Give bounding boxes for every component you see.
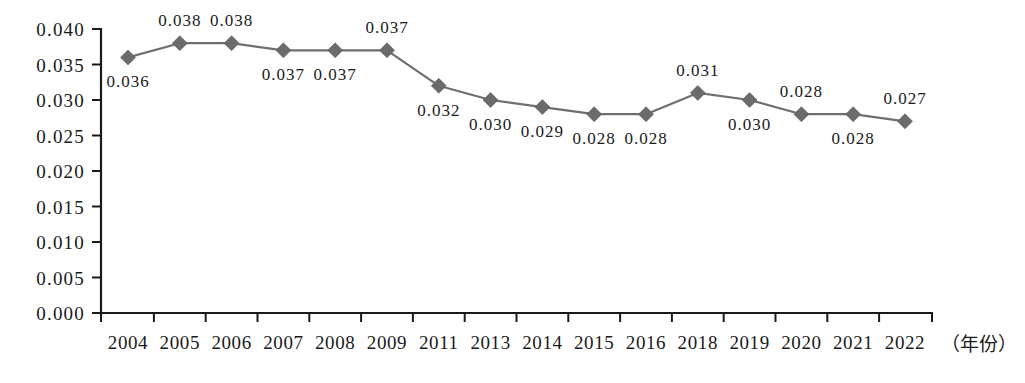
- data-point-label: 0.036: [106, 72, 149, 91]
- x-tick-marks: [101, 313, 932, 322]
- x-tick-label: 2016: [626, 332, 666, 353]
- x-tick-label: 2014: [522, 332, 562, 353]
- data-point-marker: [690, 85, 705, 100]
- x-axis-title: （年份）: [941, 334, 1017, 355]
- data-point-label: 0.032: [417, 101, 460, 120]
- y-tick-label: 0.020: [36, 161, 85, 182]
- series-point-labels: 0.0360.0380.0380.0370.0370.0370.0320.030…: [106, 11, 926, 148]
- data-point-marker: [898, 114, 913, 129]
- series-group: 0.0360.0380.0380.0370.0370.0370.0320.030…: [106, 11, 926, 148]
- data-point-marker: [587, 107, 602, 122]
- data-point-marker: [846, 107, 861, 122]
- y-tick-label: 0.005: [36, 268, 85, 289]
- data-point-marker: [276, 43, 291, 58]
- x-tick-label: 2007: [263, 332, 303, 353]
- x-tick-label: 2009: [367, 332, 407, 353]
- data-point-label: 0.037: [262, 65, 305, 84]
- y-tick-labels: 0.0000.0050.0100.0150.0200.0250.0300.035…: [36, 19, 85, 324]
- y-tick-label: 0.015: [36, 197, 85, 218]
- data-point-marker: [794, 107, 809, 122]
- chart-canvas: 0.0000.0050.0100.0150.0200.0250.0300.035…: [0, 0, 1025, 383]
- data-point-label: 0.031: [676, 61, 719, 80]
- y-axis-group: 0.0000.0050.0100.0150.0200.0250.0300.035…: [36, 19, 101, 324]
- data-point-label: 0.037: [365, 18, 408, 37]
- x-tick-label: 2006: [211, 332, 251, 353]
- data-point-marker: [224, 36, 239, 51]
- data-point-marker: [483, 93, 498, 108]
- x-tick-label: 2015: [574, 332, 614, 353]
- y-tick-label: 0.010: [36, 232, 85, 253]
- x-tick-label: 2004: [108, 332, 148, 353]
- data-point-label: 0.030: [469, 115, 512, 134]
- data-point-marker: [639, 107, 654, 122]
- x-tick-labels: 2004200520062007200820092011201320142015…: [108, 332, 925, 353]
- y-tick-label: 0.030: [36, 90, 85, 111]
- data-point-marker: [380, 43, 395, 58]
- data-point-label: 0.028: [780, 82, 823, 101]
- x-axis-group: 2004200520062007200820092011201320142015…: [101, 313, 1017, 355]
- x-tick-label: 2013: [470, 332, 510, 353]
- y-tick-label: 0.040: [36, 19, 85, 40]
- x-tick-label: 2020: [781, 332, 821, 353]
- x-tick-label: 2005: [160, 332, 200, 353]
- data-point-label: 0.037: [314, 65, 357, 84]
- data-point-label: 0.028: [832, 129, 875, 148]
- data-point-label: 0.038: [210, 11, 253, 30]
- data-point-label: 0.030: [728, 115, 771, 134]
- data-point-label: 0.028: [624, 129, 667, 148]
- data-point-marker: [328, 43, 343, 58]
- data-point-marker: [431, 78, 446, 93]
- data-point-marker: [172, 36, 187, 51]
- y-tick-label: 0.035: [36, 55, 85, 76]
- x-tick-label: 2021: [833, 332, 873, 353]
- data-point-label: 0.038: [158, 11, 201, 30]
- x-tick-label: 2008: [315, 332, 355, 353]
- line-chart: 0.0000.0050.0100.0150.0200.0250.0300.035…: [0, 0, 1025, 383]
- x-tick-label: 2022: [885, 332, 925, 353]
- y-tick-label: 0.025: [36, 126, 85, 147]
- y-tick-marks: [92, 29, 101, 313]
- data-point-label: 0.029: [521, 122, 564, 141]
- data-point-marker: [535, 100, 550, 115]
- x-tick-label: 2018: [678, 332, 718, 353]
- y-tick-label: 0.000: [36, 303, 85, 324]
- x-tick-label: 2019: [729, 332, 769, 353]
- data-point-marker: [121, 50, 136, 65]
- data-point-label: 0.028: [573, 129, 616, 148]
- x-tick-label: 2011: [419, 332, 459, 353]
- data-point-label: 0.027: [883, 89, 926, 108]
- data-point-marker: [742, 93, 757, 108]
